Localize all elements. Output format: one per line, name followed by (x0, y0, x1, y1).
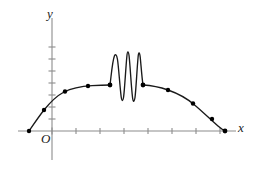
x-axis-label: x (238, 121, 244, 134)
curve-segment-oscillation (110, 52, 143, 101)
sample-marker (166, 88, 170, 92)
sample-marker (210, 117, 214, 121)
axes-group (18, 18, 236, 160)
y-axis-label: y (47, 7, 53, 20)
sample-marker (141, 83, 146, 88)
sample-marker (42, 108, 46, 112)
plot-svg (0, 0, 266, 186)
sample-marker (86, 84, 90, 88)
curve-segment-left (29, 85, 110, 131)
curve-segment-right (143, 85, 225, 131)
sample-marker (223, 129, 228, 134)
sample-marker (108, 83, 113, 88)
sample-marker (63, 89, 67, 93)
sample-marker (27, 129, 31, 133)
sample-marker (191, 101, 195, 105)
origin-label: O (41, 132, 50, 145)
figure-container: y x O (0, 0, 266, 186)
function-curve-group (29, 52, 225, 131)
